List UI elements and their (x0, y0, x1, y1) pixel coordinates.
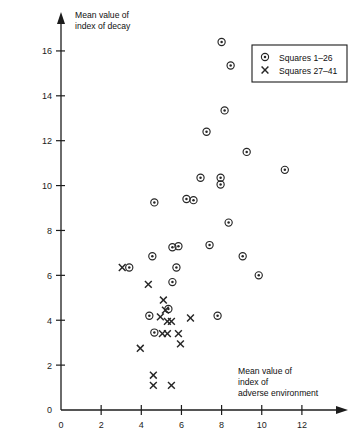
data-point-cross (160, 297, 167, 304)
y-axis-arrow (57, 12, 65, 24)
data-point-cross (177, 340, 184, 347)
data-point-cross (145, 281, 152, 288)
data-point-circle (197, 174, 204, 181)
data-point-circle (227, 62, 234, 69)
y-tick-label: 0 (47, 405, 52, 415)
data-point-circle (203, 128, 210, 135)
x-axis-title-line-2: index of (238, 377, 269, 387)
legend: Squares 1–26 Squares 27–41 (252, 45, 347, 82)
y-tick-label: 8 (47, 226, 52, 236)
y-axis-title-line-2: index of decay (75, 21, 131, 31)
data-point-circle (255, 272, 262, 279)
x-tick-label: 12 (297, 420, 307, 430)
data-point-circle (217, 174, 224, 181)
x-tick-label: 2 (99, 420, 104, 430)
x-axis-arrow (336, 406, 348, 414)
data-point-cross (119, 264, 126, 271)
data-point-circle (281, 166, 288, 173)
data-point-cross (168, 318, 175, 325)
plot-canvas: 024681012 0246810121416 Mean value of in… (0, 0, 357, 438)
data-point-cross (137, 345, 144, 352)
legend-label-series-1: Squares 1–26 (279, 53, 333, 63)
legend-box (252, 45, 347, 82)
data-point-circle (126, 264, 133, 271)
y-tick-label: 6 (47, 271, 52, 281)
data-point-circle (146, 312, 153, 319)
y-tick-label: 2 (47, 361, 52, 371)
x-tick-label: 0 (58, 420, 63, 430)
data-point-circle (169, 278, 176, 285)
x-axis-ticks: 024681012 (58, 405, 306, 430)
data-point-circle (225, 219, 232, 226)
data-point-circle (173, 264, 180, 271)
data-point-cross (157, 313, 164, 320)
data-point-circle (149, 253, 156, 260)
data-point-circle (221, 107, 228, 114)
data-point-circle (218, 38, 225, 45)
y-tick-label: 4 (47, 316, 52, 326)
legend-label-series-2: Squares 27–41 (279, 66, 338, 76)
y-axis-title-line-1: Mean value of (75, 10, 130, 20)
data-point-cross (168, 382, 175, 389)
data-point-cross (164, 330, 171, 337)
data-point-cross (187, 315, 194, 322)
series-squares-27-41-markers (119, 264, 194, 389)
y-axis-title: Mean value of index of decay (75, 10, 131, 31)
x-axis-title-line-3: adverse environment (238, 388, 319, 398)
y-tick-label: 16 (42, 46, 52, 56)
data-point-cross (150, 382, 157, 389)
data-point-cross (150, 372, 157, 379)
series-squares-1-26-markers (126, 38, 289, 336)
x-tick-label: 6 (179, 420, 184, 430)
data-point-circle (183, 195, 190, 202)
data-point-circle (243, 148, 250, 155)
data-point-circle (206, 241, 213, 248)
x-axis-title-line-1: Mean value of (238, 366, 293, 376)
data-point-circle (214, 312, 221, 319)
data-point-circle (239, 253, 246, 260)
data-point-circle (151, 199, 158, 206)
x-tick-label: 4 (139, 420, 144, 430)
y-tick-label: 12 (42, 136, 52, 146)
data-point-circle (190, 197, 197, 204)
x-tick-label: 10 (257, 420, 267, 430)
x-axis-title: Mean value of index of adverse environme… (238, 366, 319, 398)
data-point-cross (175, 330, 182, 337)
data-point-circle (217, 181, 224, 188)
data-point-circle (151, 329, 158, 336)
x-tick-label: 8 (219, 420, 224, 430)
y-tick-label: 14 (42, 91, 52, 101)
scatter-plot-figure: 024681012 0246810121416 Mean value of in… (0, 0, 357, 438)
y-tick-label: 10 (42, 181, 52, 191)
